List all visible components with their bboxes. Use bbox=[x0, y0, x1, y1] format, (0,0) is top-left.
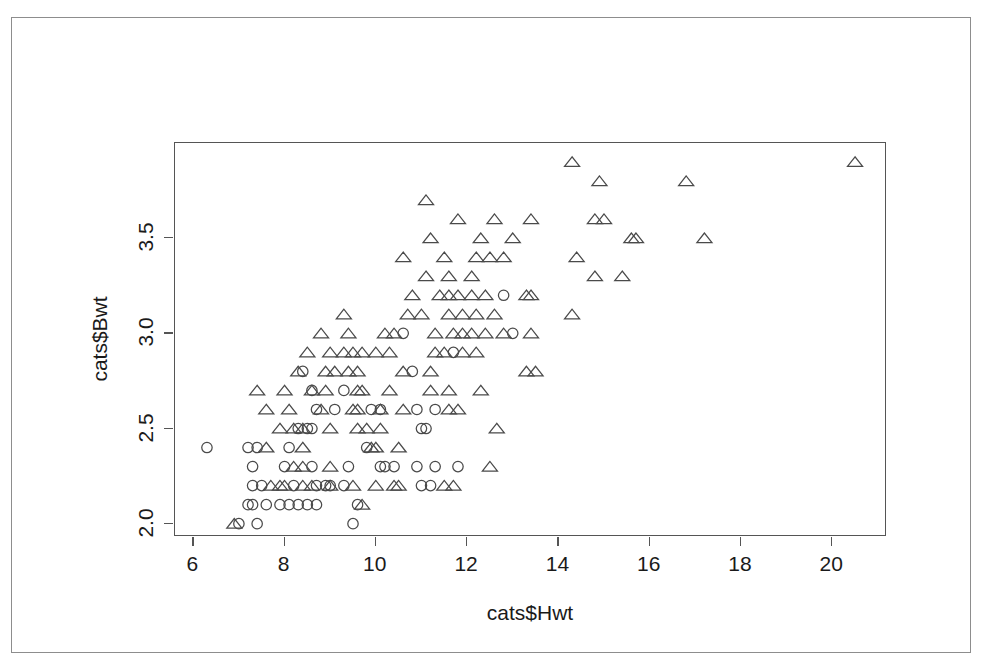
data-point-circle bbox=[421, 423, 431, 433]
data-point-circle bbox=[498, 290, 508, 300]
data-point-triangle bbox=[565, 309, 580, 319]
data-point-circle bbox=[412, 404, 422, 414]
data-point-triangle bbox=[505, 233, 520, 243]
data-point-triangle bbox=[679, 176, 694, 186]
data-point-circle bbox=[261, 499, 271, 509]
x-tick-mark bbox=[284, 537, 285, 546]
data-point-triangle bbox=[523, 214, 538, 224]
y-axis-label: cats$Bwt bbox=[88, 296, 112, 381]
data-point-triangle bbox=[295, 442, 310, 452]
x-tick-label: 14 bbox=[546, 552, 569, 576]
data-point-triangle bbox=[368, 480, 383, 490]
x-tick-label: 16 bbox=[637, 552, 660, 576]
data-point-triangle bbox=[400, 309, 415, 319]
data-point-triangle bbox=[697, 233, 712, 243]
x-tick-mark bbox=[192, 537, 193, 546]
data-point-circle bbox=[412, 461, 422, 471]
data-point-circle bbox=[243, 499, 253, 509]
data-point-triangle bbox=[318, 385, 333, 395]
data-point-circle bbox=[448, 347, 458, 357]
y-tick-mark bbox=[164, 428, 173, 429]
data-point-triangle bbox=[848, 157, 863, 167]
data-point-circle bbox=[307, 423, 317, 433]
data-point-triangle bbox=[405, 290, 420, 300]
data-point-triangle bbox=[441, 271, 456, 281]
data-point-triangle bbox=[368, 347, 383, 357]
figure-outer-frame: 68101214161820 2.02.53.03.5 cats$Hwt cat… bbox=[11, 17, 971, 653]
data-point-circle bbox=[407, 366, 417, 376]
y-tick-label: 3.0 bbox=[134, 318, 158, 347]
data-point-triangle bbox=[272, 423, 287, 433]
y-tick-label: 2.5 bbox=[134, 413, 158, 442]
data-point-triangle bbox=[441, 385, 456, 395]
x-tick-mark bbox=[466, 537, 467, 546]
data-point-triangle bbox=[382, 347, 397, 357]
data-point-circle bbox=[252, 518, 262, 528]
data-point-triangle bbox=[489, 423, 504, 433]
data-point-circle bbox=[348, 518, 358, 528]
data-point-circle bbox=[247, 461, 257, 471]
data-point-circle bbox=[288, 480, 298, 490]
x-tick-mark bbox=[375, 537, 376, 546]
data-point-triangle bbox=[487, 309, 502, 319]
data-point-triangle bbox=[414, 309, 429, 319]
data-point-circle bbox=[430, 404, 440, 414]
data-point-triangle bbox=[464, 271, 479, 281]
x-tick-label: 20 bbox=[820, 552, 843, 576]
plot-box bbox=[174, 142, 886, 536]
data-point-circle bbox=[416, 423, 426, 433]
data-point-triangle bbox=[300, 347, 315, 357]
data-point-triangle bbox=[423, 366, 438, 376]
data-point-triangle bbox=[418, 195, 433, 205]
y-tick-label: 2.0 bbox=[134, 508, 158, 537]
data-point-triangle bbox=[455, 309, 470, 319]
data-point-triangle bbox=[464, 290, 479, 300]
data-point-triangle bbox=[323, 347, 338, 357]
y-tick-mark bbox=[164, 523, 173, 524]
data-point-triangle bbox=[478, 328, 493, 338]
x-tick-mark bbox=[831, 537, 832, 546]
x-tick-label: 12 bbox=[454, 552, 477, 576]
data-point-triangle bbox=[323, 423, 338, 433]
data-point-circle bbox=[284, 442, 294, 452]
x-axis-label: cats$Hwt bbox=[487, 601, 573, 625]
data-point-triangle bbox=[482, 252, 497, 262]
data-point-circle bbox=[330, 404, 340, 414]
x-tick-label: 8 bbox=[278, 552, 290, 576]
data-point-circle bbox=[508, 328, 518, 338]
scatter-points-layer bbox=[175, 143, 887, 537]
x-tick-label: 10 bbox=[363, 552, 386, 576]
x-tick-mark bbox=[740, 537, 741, 546]
data-point-triangle bbox=[423, 385, 438, 395]
data-point-triangle bbox=[469, 347, 484, 357]
data-point-triangle bbox=[382, 385, 397, 395]
data-point-triangle bbox=[441, 309, 456, 319]
data-point-circle bbox=[453, 461, 463, 471]
data-point-circle bbox=[430, 461, 440, 471]
y-tick-mark bbox=[164, 237, 173, 238]
data-point-circle bbox=[279, 461, 289, 471]
data-point-circle bbox=[398, 328, 408, 338]
data-point-circle bbox=[202, 442, 212, 452]
data-point-triangle bbox=[282, 404, 297, 414]
data-point-triangle bbox=[478, 290, 493, 300]
data-point-circle bbox=[343, 461, 353, 471]
data-point-triangle bbox=[277, 385, 292, 395]
x-tick-label: 18 bbox=[728, 552, 751, 576]
data-point-triangle bbox=[373, 423, 388, 433]
data-point-triangle bbox=[496, 252, 511, 262]
data-point-triangle bbox=[565, 157, 580, 167]
data-point-triangle bbox=[418, 271, 433, 281]
x-tick-mark bbox=[649, 537, 650, 546]
data-point-triangle bbox=[341, 328, 356, 338]
data-point-triangle bbox=[396, 404, 411, 414]
data-point-circle bbox=[339, 480, 349, 490]
data-point-circle bbox=[339, 385, 349, 395]
data-point-triangle bbox=[587, 271, 602, 281]
data-point-triangle bbox=[469, 309, 484, 319]
data-point-triangle bbox=[314, 328, 329, 338]
data-point-circle bbox=[375, 461, 385, 471]
data-point-triangle bbox=[473, 385, 488, 395]
data-point-triangle bbox=[336, 309, 351, 319]
y-tick-label: 3.5 bbox=[134, 223, 158, 252]
